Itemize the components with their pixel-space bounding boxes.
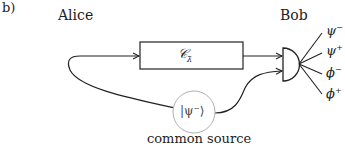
source-state: |ψ⁻⟩ bbox=[180, 104, 204, 118]
outcome-phi-minus: ϕ− bbox=[326, 65, 342, 80]
source-label: common source bbox=[147, 131, 251, 146]
outcome-psi-plus: ψ+ bbox=[326, 43, 343, 58]
outcome-lines bbox=[299, 33, 322, 94]
source-to-detector-wire bbox=[215, 71, 282, 113]
bell-detector bbox=[283, 48, 300, 81]
outcome-phi-plus: ϕ+ bbox=[326, 86, 342, 101]
diagram-canvas bbox=[0, 0, 345, 149]
channel-label: 𝒞λ̄ bbox=[178, 46, 192, 64]
outcome-psi-minus: ψ− bbox=[326, 23, 343, 38]
